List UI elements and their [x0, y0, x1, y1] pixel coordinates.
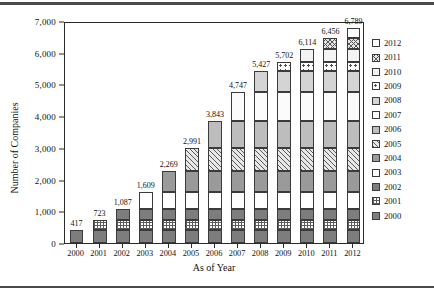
legend-item-2009[interactable]: 2009	[372, 79, 430, 93]
legend-item-2011[interactable]: 2011	[372, 50, 430, 64]
bar-segment-2002	[277, 209, 291, 221]
legend: 2012201120102009200820072006200520042003…	[372, 36, 430, 223]
x-axis-tick-label-2004: 2004	[160, 249, 177, 258]
bar-segment-2010	[347, 49, 361, 62]
bar-segment-2006	[231, 121, 245, 148]
y-axis: 01,0002,0003,0004,0005,0006,0007,000	[0, 22, 64, 244]
legend-item-label: 2009	[384, 82, 401, 91]
legend-item-2003[interactable]: 2003	[372, 166, 430, 180]
bar-segment-2001	[162, 220, 176, 230]
bar-value-label: 417	[71, 219, 83, 228]
bar-value-label: 6,789	[344, 17, 362, 26]
bar-2011[interactable]	[323, 38, 337, 243]
bar-segment-2004	[323, 171, 337, 192]
x-axis-tick-mark	[352, 244, 353, 248]
bar-segment-2003	[300, 192, 314, 209]
bar-segment-2009	[323, 62, 337, 71]
x-axis-tick-mark	[76, 244, 77, 248]
legend-item-2005[interactable]: 2005	[372, 137, 430, 151]
bar-segment-2006	[300, 121, 314, 148]
bar-segment-2010	[323, 49, 337, 62]
bar-segment-2005	[208, 148, 222, 171]
bar-segment-2000	[347, 230, 361, 243]
bar-segment-2008	[300, 71, 314, 93]
bar-segment-2007	[347, 92, 361, 121]
bar-segment-2003	[323, 192, 337, 209]
bar-segment-2004	[231, 171, 245, 192]
legend-item-2012[interactable]: 2012	[372, 36, 430, 50]
x-axis-title: As of Year	[64, 262, 364, 273]
legend-swatch-icon	[372, 111, 380, 119]
x-axis-tick-label-2008: 2008	[252, 249, 269, 258]
bar-segment-2002	[300, 209, 314, 221]
bar-2007[interactable]	[231, 92, 245, 243]
legend-item-2008[interactable]: 2008	[372, 94, 430, 108]
bottom-divider	[0, 286, 434, 288]
bar-2000[interactable]	[70, 230, 84, 243]
bar-segment-2000	[300, 230, 314, 243]
legend-item-2007[interactable]: 2007	[372, 108, 430, 122]
bar-segment-2000	[116, 230, 130, 243]
legend-swatch-icon	[372, 126, 380, 134]
x-axis-tick-label-2000: 2000	[67, 249, 84, 258]
bar-segment-2007	[323, 92, 337, 121]
bar-value-label: 5,702	[275, 51, 293, 60]
bar-segment-2003	[162, 192, 176, 209]
bar-segment-2008	[323, 71, 337, 93]
bar-segment-2000	[185, 230, 199, 243]
x-axis-tick-label-2006: 2006	[206, 249, 223, 258]
bar-2001[interactable]	[93, 220, 107, 243]
y-axis-tick-label: 0	[51, 239, 56, 249]
x-axis-tick-mark	[306, 244, 307, 248]
plot-area: 4177231,0871,6092,2692,9913,8434,7475,42…	[64, 22, 364, 244]
x-axis-tick-mark	[145, 244, 146, 248]
bar-segment-2004	[347, 171, 361, 192]
bar-2006[interactable]	[208, 121, 222, 243]
legend-item-label: 2012	[384, 39, 401, 48]
bar-value-label: 3,843	[206, 110, 224, 119]
legend-swatch-icon	[372, 212, 380, 220]
bar-2010[interactable]	[300, 49, 314, 243]
bar-segment-2005	[185, 148, 199, 171]
x-axis-tick-label-2012: 2012	[344, 249, 361, 258]
bar-2002[interactable]	[116, 209, 130, 243]
legend-item-2006[interactable]: 2006	[372, 122, 430, 136]
bar-segment-2005	[347, 148, 361, 171]
bar-2005[interactable]	[185, 148, 199, 243]
bar-segment-2011	[323, 38, 337, 49]
legend-swatch-icon	[372, 154, 380, 162]
legend-item-2002[interactable]: 2002	[372, 180, 430, 194]
bars-container: 4177231,0871,6092,2692,9913,8434,7475,42…	[65, 23, 363, 243]
bar-2003[interactable]	[139, 192, 153, 243]
legend-item-label: 2001	[384, 197, 401, 206]
bar-2008[interactable]	[254, 71, 268, 243]
bar-value-label: 723	[94, 209, 106, 218]
x-axis-tick-mark	[191, 244, 192, 248]
bar-segment-2003	[208, 192, 222, 209]
legend-swatch-icon	[372, 197, 380, 205]
bar-segment-2002	[254, 209, 268, 221]
bar-segment-2010	[300, 49, 314, 62]
bar-2004[interactable]	[162, 171, 176, 243]
legend-item-2004[interactable]: 2004	[372, 151, 430, 165]
bar-segment-2002	[139, 209, 153, 221]
bar-segment-2007	[300, 92, 314, 121]
x-axis: 2000200120022003200420052006200720082009…	[64, 245, 364, 261]
x-axis-tick-label-2010: 2010	[298, 249, 315, 258]
legend-item-2010[interactable]: 2010	[372, 65, 430, 79]
bar-2012[interactable]	[347, 28, 361, 243]
x-axis-tick-mark	[122, 244, 123, 248]
bar-segment-2005	[254, 148, 268, 171]
legend-item-2000[interactable]: 2000	[372, 209, 430, 223]
legend-item-label: 2010	[384, 68, 401, 77]
legend-item-label: 2006	[384, 125, 401, 134]
bar-segment-2003	[231, 192, 245, 209]
bar-segment-2009	[300, 62, 314, 71]
x-axis-tick-label-2007: 2007	[229, 249, 246, 258]
bar-segment-2000	[139, 230, 153, 243]
bar-segment-2012	[347, 28, 361, 39]
bar-segment-2001	[254, 220, 268, 230]
bar-2009[interactable]	[277, 62, 291, 243]
bar-segment-2001	[231, 220, 245, 230]
legend-item-2001[interactable]: 2001	[372, 194, 430, 208]
